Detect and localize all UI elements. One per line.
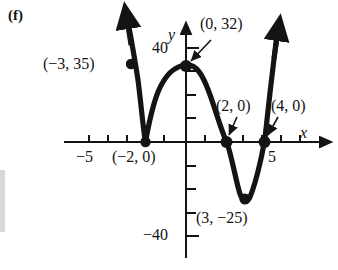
curve-right-arrow [274, 38, 277, 58]
y-tick-label-40: 40 [152, 40, 168, 56]
curve-left-arrow [128, 26, 131, 45]
leader-arrow-2-0 [229, 117, 237, 135]
point-label-4-0: (4, 0) [271, 98, 306, 114]
point-3-minus25 [239, 193, 250, 204]
point-minus2-0 [140, 137, 150, 147]
y-axis-label: y [168, 27, 175, 43]
x-axis-label: x [300, 125, 307, 141]
point-label-0-32: (0, 32) [200, 16, 243, 32]
point-label-3-minus25: (3, −25) [196, 210, 248, 226]
y-tick-label-minus40: −40 [143, 227, 168, 243]
x-tick-label-minus5: −5 [76, 149, 93, 165]
point-2-0 [221, 136, 233, 148]
point-minus3-35 [126, 59, 136, 69]
point-4-0 [259, 136, 271, 148]
figure-panel: (f) [0, 0, 338, 270]
point-label-2-0: (2, 0) [216, 98, 251, 114]
leader-arrow-0-32 [191, 40, 211, 61]
x-tick-label-5: 5 [268, 149, 276, 165]
point-label-minus3-35: (−3, 35) [43, 56, 95, 72]
point-label-minus2-0: (−2, 0) [112, 149, 156, 165]
point-0-32 [180, 60, 192, 72]
